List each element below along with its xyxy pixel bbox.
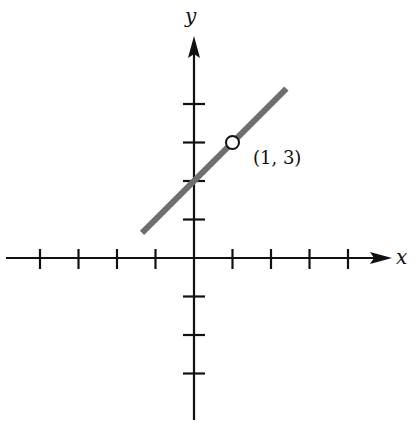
plot-svg — [0, 0, 416, 428]
coordinate-plane: y x (1, 3) — [0, 0, 416, 428]
y-axis-label: y — [185, 4, 196, 28]
axes — [6, 36, 392, 420]
point-marker — [226, 136, 239, 149]
x-axis-label: x — [396, 245, 407, 269]
open-point-icon — [226, 136, 239, 149]
point-label: (1, 3) — [253, 147, 301, 168]
